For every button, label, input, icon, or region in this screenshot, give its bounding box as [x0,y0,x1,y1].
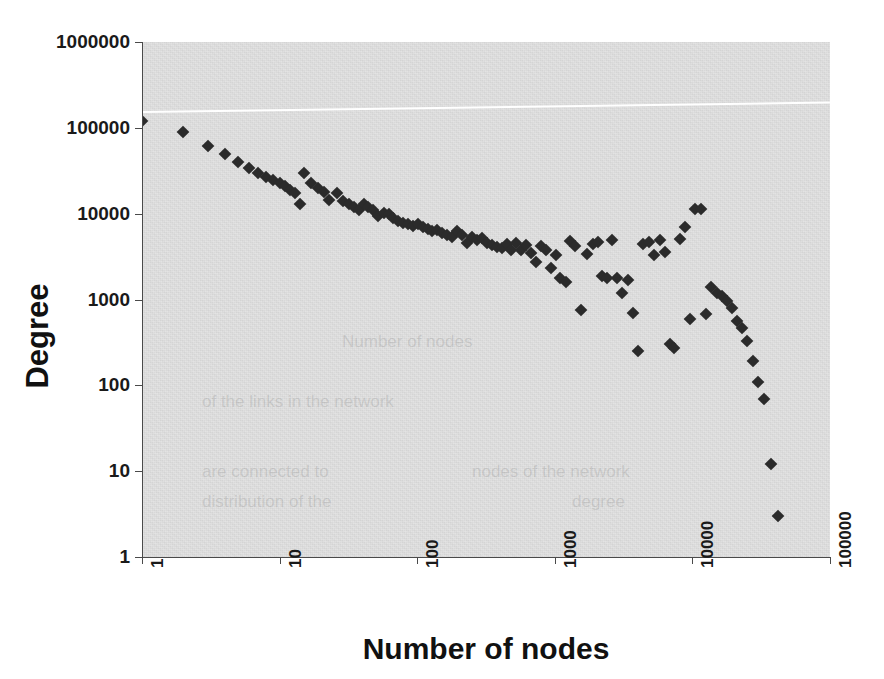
x-tick [417,557,418,564]
x-tick-label: 1000 [562,530,579,568]
y-tick-label: 100000 [2,118,130,137]
data-point [606,234,619,247]
x-tick [692,557,693,564]
data-point [736,322,749,335]
y-tick [135,300,142,301]
data-point [673,232,686,245]
plot-area: Number of nodesof the links in the netwo… [142,42,830,557]
chart-figure: Number of nodesof the links in the netwo… [0,0,884,679]
data-point [575,304,588,317]
data-point [658,245,671,258]
x-axis-title: Number of nodes [142,632,830,666]
data-point [611,271,624,284]
data-point [699,308,712,321]
trend-line [142,102,830,114]
y-tick-label: 1000000 [2,32,130,51]
x-tick-label: 1 [149,559,166,568]
data-point [545,262,558,275]
data-point [627,306,640,319]
data-point [746,355,759,368]
data-point [752,375,765,388]
y-tick [135,214,142,215]
data-point [616,286,629,299]
y-axis-line [142,42,143,558]
y-tick [135,557,142,558]
data-point [772,510,785,523]
data-point [530,256,543,269]
y-tick-label: 1 [2,547,130,566]
x-tick-label: 10000 [699,521,716,568]
x-tick-label: 100000 [837,511,854,568]
ghost-text: nodes of the network [472,462,630,482]
data-point [293,198,306,211]
data-point [631,345,644,358]
x-tick [280,557,281,564]
ghost-text: degree [572,492,625,512]
data-point [201,139,214,152]
x-tick-label: 10 [287,549,304,568]
y-tick-label: 10000 [2,204,130,223]
data-point [622,273,635,286]
data-point [177,125,190,138]
y-tick [135,385,142,386]
y-tick-label: 10 [2,461,130,480]
y-tick [135,471,142,472]
data-point [764,458,777,471]
data-point [297,166,310,179]
data-point [668,342,681,355]
data-point [684,312,697,325]
y-axis-title: Degree [20,236,56,436]
ghost-text: Number of nodes [342,332,472,352]
data-point [757,392,770,405]
x-axis-line [142,557,831,558]
y-tick [135,128,142,129]
data-point [218,147,231,160]
x-tick [142,557,143,564]
ghost-text: of the links in the network [202,392,394,412]
data-point [580,248,593,261]
x-tick [830,557,831,564]
data-point [741,334,754,347]
x-tick-label: 100 [424,540,441,568]
x-tick [555,557,556,564]
ghost-text: distribution of the [202,492,331,512]
ghost-text: are connected to [202,462,329,482]
y-tick [135,42,142,43]
